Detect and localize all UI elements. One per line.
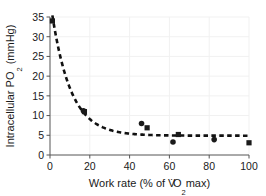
data-point-circle xyxy=(170,139,176,145)
tick-marks xyxy=(47,17,250,159)
data-point-square xyxy=(176,132,181,137)
chart-figure: 020406080100 05101520253035 Work rate (%… xyxy=(0,0,266,195)
x-tick-label: 60 xyxy=(164,160,176,172)
x-tick-label: 40 xyxy=(124,160,136,172)
x-tick-labels: 020406080100 xyxy=(47,160,258,172)
data-point-circle xyxy=(211,137,217,143)
exponential-fit-curve xyxy=(52,15,249,135)
fit-curve xyxy=(52,15,249,135)
y-tick-label: 15 xyxy=(32,90,44,102)
y-axis-title: Intracellular PO2 (mmHg) xyxy=(4,25,23,148)
data-markers xyxy=(50,18,252,145)
y-tick-label: 20 xyxy=(32,70,44,82)
x-axis-title: Work rate (% of V·O2max) xyxy=(89,174,210,196)
data-point-circle xyxy=(81,108,87,114)
data-point-square xyxy=(50,18,55,23)
y-axis-title-text: Intracellular PO2 (mmHg) xyxy=(4,25,23,148)
data-point-square xyxy=(145,125,150,130)
y-tick-label: 35 xyxy=(32,11,44,23)
x-tick-label: 80 xyxy=(203,160,215,172)
data-point-square xyxy=(246,140,251,145)
y-tick-label: 30 xyxy=(32,31,44,43)
data-point-circle xyxy=(139,121,145,127)
chart-svg: 020406080100 05101520253035 Work rate (%… xyxy=(0,0,266,195)
x-tick-label: 100 xyxy=(240,160,258,172)
y-tick-label: 25 xyxy=(32,50,44,62)
x-tick-label: 20 xyxy=(84,160,96,172)
y-tick-label: 5 xyxy=(38,129,44,141)
y-tick-label: 10 xyxy=(32,109,44,121)
y-tick-label: 0 xyxy=(38,149,44,161)
y-tick-labels: 05101520253035 xyxy=(32,11,44,161)
x-tick-label: 0 xyxy=(47,160,53,172)
x-axis-title-text: Work rate (% of V·O2max) xyxy=(89,174,210,196)
